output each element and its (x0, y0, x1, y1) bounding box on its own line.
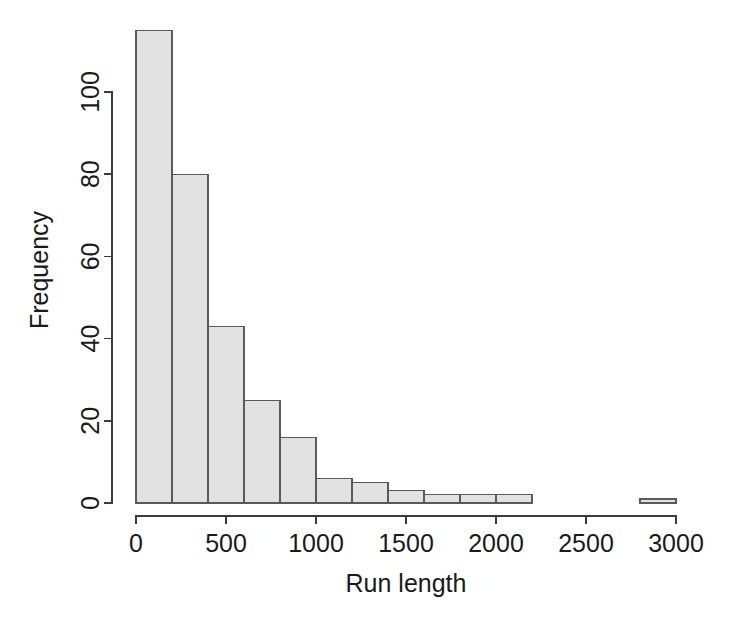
y-axis-tick-label: 80 (76, 160, 104, 188)
histogram-bar (640, 499, 676, 503)
y-axis-tick-label: 40 (76, 325, 104, 353)
x-axis-tick-label: 0 (129, 529, 143, 557)
histogram-bar (316, 478, 352, 503)
y-axis-tick-label: 20 (76, 407, 104, 435)
x-axis-tick-label: 2500 (558, 529, 614, 557)
y-axis-tick-label: 100 (76, 71, 104, 113)
x-axis-ticks (226, 516, 586, 524)
x-axis: 050010001500200025003000 (129, 516, 704, 557)
histogram-bar (424, 495, 460, 503)
y-axis-ticks (104, 174, 112, 421)
y-axis-tick-label: 0 (76, 496, 104, 510)
histogram-bar (280, 437, 316, 503)
y-axis-title: Frequency (25, 210, 53, 329)
x-axis-tick-label: 2000 (468, 529, 524, 557)
x-axis-title: Run length (346, 569, 467, 597)
histogram-bar (352, 482, 388, 503)
x-axis-tick-label: 1500 (378, 529, 434, 557)
histogram-bar (208, 326, 244, 503)
y-axis: 020406080100 (76, 71, 112, 510)
histogram-plot: 050010001500200025003000 020406080100 Ru… (0, 0, 736, 633)
y-axis-tick-label: 60 (76, 242, 104, 270)
histogram-bar (172, 174, 208, 503)
x-axis-tick-label: 1000 (288, 529, 344, 557)
y-axis-tick-labels: 020406080100 (76, 71, 104, 510)
x-axis-tick-labels: 050010001500200025003000 (129, 529, 704, 557)
histogram-bar (244, 400, 280, 503)
histogram-bar (388, 491, 424, 503)
histogram-bar (496, 495, 532, 503)
histogram-bar (136, 30, 172, 503)
histogram-bars (136, 30, 676, 503)
x-axis-tick-label: 3000 (648, 529, 704, 557)
histogram-bar (460, 495, 496, 503)
x-axis-tick-label: 500 (205, 529, 247, 557)
y-axis-line (104, 92, 112, 503)
histogram-figure: 050010001500200025003000 020406080100 Ru… (0, 0, 736, 633)
